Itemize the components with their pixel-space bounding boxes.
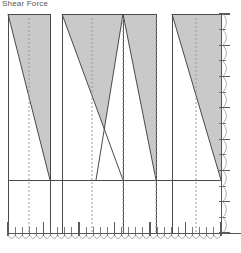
x-arc-21 [157, 235, 164, 239]
x-arc-20 [150, 235, 157, 239]
x-arc-28 [207, 235, 214, 239]
x-arc-8 [65, 235, 72, 239]
x-arc-4 [36, 235, 43, 239]
y-arc-3 [223, 61, 227, 77]
y-arc-2 [223, 45, 227, 61]
x-arc-9 [72, 235, 79, 239]
x-arc-16 [122, 235, 129, 239]
y-arc-9 [223, 155, 227, 171]
y-arc-10 [223, 170, 227, 186]
x-arc-17 [129, 235, 136, 239]
x-arc-5 [44, 235, 51, 239]
x-arc-7 [58, 235, 65, 239]
y-arc-12 [223, 202, 227, 218]
y-arc-4 [223, 77, 227, 93]
x-arc-6 [51, 235, 58, 239]
x-arc-27 [200, 235, 207, 239]
x-arc-2 [22, 235, 29, 239]
x-arc-25 [186, 235, 193, 239]
span-shapes-group [8, 14, 221, 180]
x-arc-22 [164, 235, 171, 239]
x-arc-0 [8, 235, 15, 239]
y-arc-8 [223, 139, 227, 155]
y-arc-6 [223, 108, 227, 124]
x-arc-1 [15, 235, 22, 239]
y-arc-5 [223, 92, 227, 108]
shear-force-diagram [0, 0, 241, 253]
y-arc-0 [223, 14, 227, 30]
y-arc-7 [223, 124, 227, 140]
x-arc-18 [136, 235, 143, 239]
x-arc-24 [178, 235, 185, 239]
x-arc-10 [79, 235, 86, 239]
x-arc-12 [93, 235, 100, 239]
x-arc-15 [115, 235, 122, 239]
diagram-root: Shear Force [0, 0, 241, 253]
x-arc-14 [107, 235, 114, 239]
x-arc-11 [86, 235, 93, 239]
y-arc-1 [223, 30, 227, 46]
y-arc-13 [223, 217, 227, 233]
x-arc-19 [143, 235, 150, 239]
x-arc-3 [29, 235, 36, 239]
x-arc-13 [100, 235, 107, 239]
x-arc-29 [214, 235, 221, 239]
x-arc-26 [193, 235, 200, 239]
x-arc-23 [171, 235, 178, 239]
y-arc-11 [223, 186, 227, 202]
